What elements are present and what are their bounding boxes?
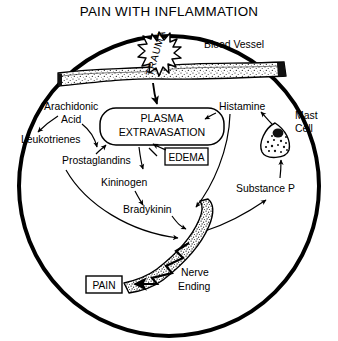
leukotrienes-label: Leukotrienes <box>21 134 81 145</box>
plasma-extravasation-node: PLASMA EXTRAVASATION <box>100 108 224 145</box>
pain-label: PAIN <box>92 280 115 291</box>
pain-inflammation-diagram: PAIN WITH INFLAMMATION Blood Vessel TRAU… <box>0 0 338 341</box>
plasma-label-line2: EXTRAVASATION <box>119 126 206 138</box>
histamine-label: Histamine <box>219 101 265 112</box>
plasma-label-line1: PLASMA <box>141 112 185 124</box>
substance-p-label: Substance P <box>236 183 295 194</box>
arachidonic-acid-label-line1: Arachidonic <box>44 101 98 112</box>
pain-node: PAIN <box>86 276 122 293</box>
figure-canvas: PAIN WITH INFLAMMATION Blood Vessel TRAU… <box>0 0 338 341</box>
arachidonic-acid-label-line2: Acid <box>61 114 81 125</box>
edema-label: EDEMA <box>168 152 204 163</box>
kininogen-label: Kininogen <box>101 177 147 188</box>
nerve-ending-label-line1: Nerve <box>181 267 209 278</box>
mast-cell-label-line2: Cell <box>295 123 313 134</box>
nerve-ending-label-line2: Ending <box>178 281 211 292</box>
edema-node: EDEMA <box>165 148 208 165</box>
blood-vessel-label: Blood Vessel <box>204 39 264 50</box>
prostaglandins-label: Prostaglandins <box>62 155 131 166</box>
page-title: PAIN WITH INFLAMMATION <box>80 4 259 19</box>
mast-cell-label-line1: Mast <box>295 110 318 121</box>
bradykinin-label: Bradykinin <box>123 204 172 215</box>
